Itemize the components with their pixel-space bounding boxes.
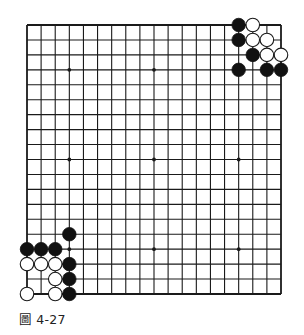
white-stone-icon <box>260 33 274 47</box>
black-stone-icon <box>63 227 77 241</box>
black-stone-icon <box>48 242 62 256</box>
star-point-icon <box>152 247 156 251</box>
black-stone-icon <box>20 242 34 256</box>
white-stone-icon <box>48 287 62 301</box>
black-stone-icon <box>274 63 288 77</box>
star-point-icon <box>237 247 241 251</box>
black-stone-icon <box>63 272 77 286</box>
black-stone-icon <box>34 242 48 256</box>
black-stone-icon <box>232 18 246 32</box>
black-stone-icon <box>63 287 77 301</box>
black-stone-icon <box>232 63 246 77</box>
white-stone-icon <box>48 272 62 286</box>
black-stone-icon <box>232 33 246 47</box>
white-stone-icon <box>246 33 260 47</box>
star-point-icon <box>237 158 241 162</box>
star-point-icon <box>152 68 156 72</box>
star-point-icon <box>67 68 71 72</box>
white-stone-icon <box>260 48 274 62</box>
white-stone-icon <box>274 48 288 62</box>
black-stone-icon <box>246 48 260 62</box>
white-stone-icon <box>20 287 34 301</box>
black-stone-icon <box>260 63 274 77</box>
star-point-icon <box>67 247 71 251</box>
white-stone-icon <box>34 257 48 271</box>
white-stone-icon <box>48 257 62 271</box>
go-board-grid <box>0 0 304 305</box>
white-stone-icon <box>20 257 34 271</box>
white-stone-icon <box>246 18 260 32</box>
figure-caption: 圖 4-27 <box>19 309 66 328</box>
star-point-icon <box>152 158 156 162</box>
black-stone-icon <box>63 257 77 271</box>
go-board <box>0 0 304 305</box>
star-point-icon <box>67 158 71 162</box>
